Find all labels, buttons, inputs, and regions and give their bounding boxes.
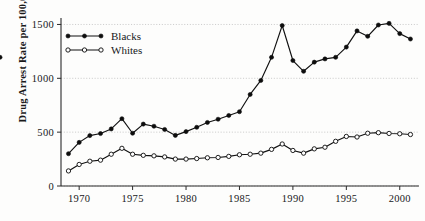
data-point-whites-1976	[141, 153, 145, 157]
data-point-blacks-1975	[131, 131, 135, 135]
data-point-blacks-1973	[109, 127, 113, 131]
data-point-blacks-1984	[227, 113, 231, 117]
data-point-whites-1970	[77, 162, 81, 166]
data-point-whites-1977	[152, 154, 156, 158]
data-point-blacks-1971	[88, 134, 92, 138]
x-tick-label-1975: 1975	[121, 193, 143, 204]
chart-legend: BlacksWhites	[66, 30, 142, 56]
data-point-blacks-1969	[66, 152, 70, 156]
data-point-whites-1983	[216, 155, 220, 159]
data-point-blacks-1993	[323, 57, 327, 61]
data-point-blacks-2001	[408, 37, 412, 41]
legend-marker-whites-2	[99, 48, 103, 52]
data-point-whites-2001	[408, 132, 412, 136]
data-point-whites-1981	[195, 156, 199, 160]
data-point-blacks-1982	[205, 120, 209, 124]
legend-marker-blacks-2	[99, 34, 103, 38]
x-tick-label-1970: 1970	[68, 193, 90, 204]
data-point-blacks-1994	[334, 55, 338, 59]
data-point-whites-1979	[173, 157, 177, 161]
data-point-whites-1996	[355, 135, 359, 139]
data-point-blacks-undefined	[0, 55, 2, 59]
data-point-whites-1978	[163, 155, 167, 159]
data-point-blacks-1986	[248, 92, 252, 96]
data-point-blacks-1995	[344, 45, 348, 49]
data-point-whites-1993	[323, 145, 327, 149]
data-point-blacks-1978	[163, 127, 167, 131]
legend-marker-blacks-0	[66, 34, 70, 38]
x-axis-ticks	[79, 186, 400, 190]
data-point-blacks-1983	[216, 117, 220, 121]
data-point-blacks-1998	[376, 23, 380, 27]
data-point-whites-1986	[248, 152, 252, 156]
data-point-whites-1982	[205, 156, 209, 160]
y-axis-tick-labels: 050010001500	[32, 19, 61, 192]
y-tick-label-1500: 1500	[32, 19, 54, 30]
legend-label-blacks: Blacks	[111, 30, 141, 42]
data-point-blacks-1972	[98, 132, 102, 136]
data-point-whites-1990	[291, 148, 295, 152]
drug-arrest-rate-chart: Drug Arrest Rate per 100,000 05001000150…	[0, 0, 425, 221]
data-point-whites-1989	[280, 142, 284, 146]
data-point-blacks-1981	[195, 125, 199, 129]
x-tick-label-2000: 2000	[389, 193, 411, 204]
data-point-blacks-1987	[259, 78, 263, 82]
data-point-whites-1991	[301, 151, 305, 155]
x-tick-label-1995: 1995	[335, 193, 357, 204]
data-point-blacks-2000	[398, 32, 402, 36]
x-axis-tick-labels: 1970197519801985199019952000	[68, 193, 411, 204]
data-point-blacks-1970	[77, 140, 81, 144]
data-point-whites-1975	[130, 152, 134, 156]
data-point-blacks-1990	[291, 58, 295, 62]
data-point-blacks-1992	[312, 60, 316, 64]
data-point-whites-1988	[269, 147, 273, 151]
data-point-blacks-1979	[173, 133, 177, 137]
data-point-blacks-1980	[184, 130, 188, 134]
data-point-whites-1984	[227, 154, 231, 158]
data-point-blacks-1977	[152, 124, 156, 128]
data-point-blacks-1999	[387, 21, 391, 25]
data-point-whites-1973	[109, 152, 113, 156]
data-point-whites-1974	[120, 146, 124, 150]
legend-marker-whites-1	[82, 48, 86, 52]
data-point-whites-1987	[259, 151, 263, 155]
y-tick-label-0: 0	[48, 181, 54, 192]
data-point-whites-1992	[312, 147, 316, 151]
data-point-blacks-1985	[237, 110, 241, 114]
x-tick-label-1990: 1990	[282, 193, 304, 204]
data-point-blacks-1989	[280, 23, 284, 27]
data-point-whites-1971	[88, 159, 92, 163]
data-point-blacks-1997	[366, 34, 370, 38]
data-point-whites-1998	[376, 131, 380, 135]
data-point-whites-1985	[237, 153, 241, 157]
data-point-blacks-1996	[355, 29, 359, 33]
y-tick-label-1000: 1000	[32, 73, 54, 84]
x-tick-label-1985: 1985	[228, 193, 250, 204]
plot-area: 050010001500 197019751980198519901995200…	[0, 0, 425, 221]
data-series	[0, 21, 413, 173]
x-tick-label-1980: 1980	[175, 193, 197, 204]
legend-marker-whites-0	[66, 48, 70, 52]
data-point-blacks-1974	[120, 117, 124, 121]
y-tick-label-500: 500	[37, 127, 54, 138]
data-point-blacks-1988	[269, 55, 273, 59]
legend-marker-blacks-1	[82, 34, 86, 38]
legend-label-whites: Whites	[111, 44, 142, 56]
data-point-whites-1980	[184, 157, 188, 161]
data-point-whites-1972	[98, 158, 102, 162]
series-line-blacks	[68, 23, 410, 153]
data-point-whites-1995	[344, 134, 348, 138]
data-point-whites-1994	[333, 139, 337, 143]
data-point-blacks-1991	[302, 69, 306, 73]
data-point-whites-1999	[387, 131, 391, 135]
data-point-whites-1997	[366, 131, 370, 135]
data-point-whites-1969	[66, 169, 70, 173]
data-point-blacks-1976	[141, 122, 145, 126]
data-point-whites-2000	[398, 132, 402, 136]
